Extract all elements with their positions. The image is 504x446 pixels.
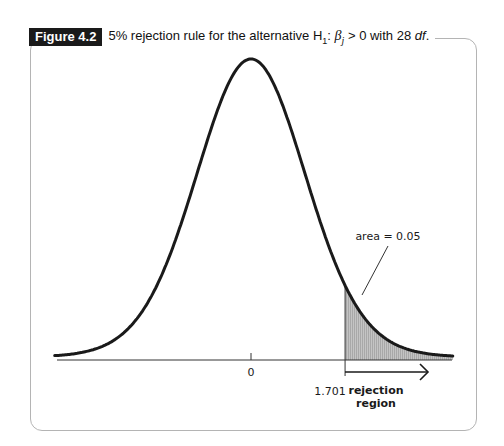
distribution-plot: 0 1.701 area = 0.05 rejection region [0, 0, 504, 446]
density-curve [55, 59, 453, 356]
tick-label-critical: 1.701 [314, 385, 346, 398]
rejection-area-shading [345, 285, 453, 360]
rejection-region-label-line2: region [356, 397, 396, 410]
area-annotation: area = 0.05 [355, 230, 420, 243]
tick-label-zero: 0 [248, 366, 255, 379]
area-leader-line [362, 246, 388, 295]
rejection-region-label-line1: rejection [348, 384, 403, 397]
